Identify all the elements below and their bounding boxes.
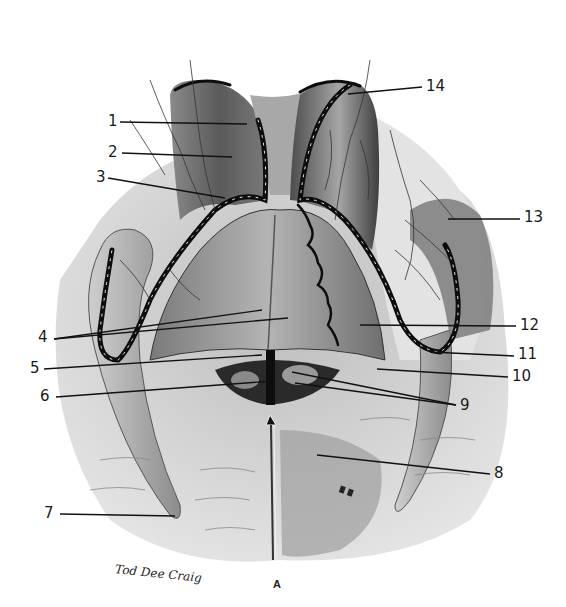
label-9: 9: [460, 398, 470, 413]
label-2: 2: [108, 145, 118, 160]
label-12: 12: [520, 318, 539, 333]
label-3: 3: [96, 170, 106, 185]
anatomical-figure: 1 2 3 4 5 6 7 8 9 10 11 12 13 14 Tod Dee…: [0, 0, 566, 607]
label-14: 14: [426, 79, 445, 94]
figure-caption: A: [273, 578, 281, 590]
label-1: 1: [108, 114, 118, 129]
label-4: 4: [38, 330, 48, 345]
label-7: 7: [44, 506, 54, 521]
label-11: 11: [518, 347, 537, 362]
label-5: 5: [30, 361, 40, 376]
label-8: 8: [494, 466, 504, 481]
label-10: 10: [512, 369, 531, 384]
label-6: 6: [40, 389, 50, 404]
illustration: [0, 0, 566, 607]
label-13: 13: [524, 210, 543, 225]
